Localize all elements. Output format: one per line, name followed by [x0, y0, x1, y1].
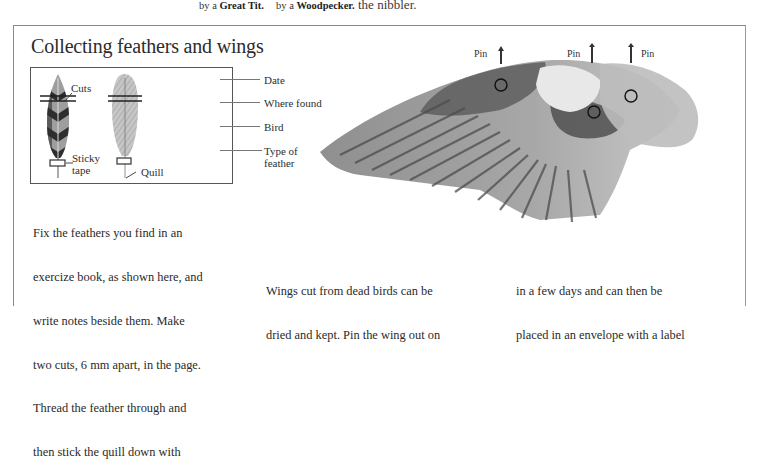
- text-line: placed in an envelope with a label: [516, 328, 685, 343]
- pin-icon: [497, 46, 505, 64]
- text-line: dried and kept. Pin the wing out on: [266, 328, 440, 343]
- label-sticky: Sticky: [72, 152, 100, 164]
- pin-label-1: Pin: [474, 48, 487, 59]
- text-line: write notes beside them. Make: [33, 314, 203, 329]
- note-line-date: [220, 79, 260, 80]
- note-label-date: Date: [264, 74, 285, 86]
- text-line: Wings cut from dead birds can be: [266, 284, 440, 299]
- body-text-column-2: Wings cut from dead birds can be dried a…: [266, 255, 440, 357]
- label-quill: Quill: [141, 166, 164, 178]
- label-tape: tape: [72, 164, 90, 176]
- note-line-bird: [220, 126, 260, 127]
- label-cuts: Cuts: [71, 82, 91, 94]
- note-label-bird: Bird: [264, 121, 284, 133]
- text-line: Fix the feathers you find in an: [33, 226, 203, 241]
- text-line: in a few days and can then be: [516, 284, 685, 299]
- text-line: Thread the feather through and: [33, 401, 203, 416]
- pin-icon: [627, 43, 635, 63]
- pin-label-3: Pin: [641, 48, 654, 59]
- body-text-column-1: Fix the feathers you find in an exercize…: [33, 197, 203, 463]
- text-line: exercize book, as shown here, and: [33, 270, 203, 285]
- pin-icon: [588, 43, 596, 63]
- note-line-type: [220, 150, 262, 151]
- note-label-type-1: Type of: [264, 145, 298, 157]
- bird-wing-illustration: [300, 40, 720, 240]
- pin-label-2: Pin: [567, 48, 580, 59]
- body-text-column-3: in a few days and can then be placed in …: [516, 255, 685, 357]
- text-line: then stick the quill down with: [33, 445, 203, 460]
- text-line: two cuts, 6 mm apart, in the page.: [33, 358, 203, 373]
- note-label-type-2: feather: [264, 157, 295, 169]
- note-line-where-found: [220, 102, 260, 103]
